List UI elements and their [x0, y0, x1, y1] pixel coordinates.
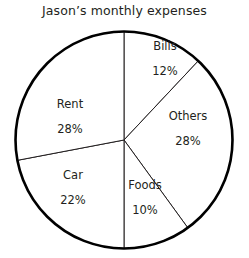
slice-label-foods: Foods 10%	[115, 178, 175, 217]
slice-name-foods: Foods	[115, 178, 175, 192]
slice-value-foods: 10%	[115, 203, 175, 217]
slice-name-others: Others	[151, 109, 225, 123]
slice-label-rent: Rent 28%	[36, 97, 104, 136]
slice-value-car: 22%	[41, 193, 105, 207]
pie-chart-figure: Jason’s monthly expenses Bills 12% Other…	[0, 0, 249, 258]
slice-label-car: Car 22%	[41, 168, 105, 207]
slice-value-others: 28%	[151, 134, 225, 148]
slice-value-rent: 28%	[36, 122, 104, 136]
slice-name-rent: Rent	[36, 97, 104, 111]
pie-slice-rent[interactable]	[15, 31, 124, 160]
slice-name-bills: Bills	[136, 39, 194, 53]
slice-label-bills: Bills 12%	[136, 39, 194, 78]
slice-value-bills: 12%	[136, 64, 194, 78]
slice-label-others: Others 28%	[151, 109, 225, 148]
slice-name-car: Car	[41, 168, 105, 182]
